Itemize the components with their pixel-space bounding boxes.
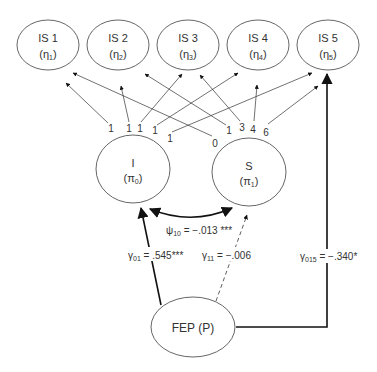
node-is1-symbol: (η1)	[39, 48, 56, 61]
node-is4-symbol: (η4)	[249, 48, 266, 61]
loading-s-is1: 0	[212, 138, 218, 149]
node-is2-symbol: (η2)	[109, 48, 126, 61]
node-slope-label: S	[245, 160, 252, 172]
arrow-i-is2	[121, 86, 129, 122]
intercept-loading-arrows	[66, 73, 312, 132]
node-fep: FEP (P)	[151, 297, 235, 357]
node-is4-label: IS 4	[248, 32, 268, 44]
loading-labels: 1 1 1 1 1 0 1 3 4 6	[108, 122, 269, 149]
arrow-s-is2	[145, 74, 226, 125]
node-intercept-symbol: (π0)	[124, 172, 143, 185]
node-is5-label: IS 5	[318, 32, 338, 44]
node-slope: S (π1)	[212, 138, 286, 206]
arrow-s-is5	[268, 86, 318, 124]
node-is3-symbol: (η3)	[179, 48, 196, 61]
node-intercept-label: I	[131, 157, 134, 169]
loading-i-is2: 1	[126, 123, 132, 134]
loading-i-is1: 1	[108, 123, 114, 134]
node-is1-label: IS 1	[38, 32, 58, 44]
path-fep-to-is5	[236, 74, 327, 327]
arrow-i-is1	[66, 83, 108, 123]
node-intercept: I (π0)	[96, 135, 170, 203]
arrow-i-is3	[141, 74, 182, 122]
arrow-s-is4	[254, 85, 257, 121]
node-is3: IS 3 (η3)	[157, 20, 219, 70]
node-is2-label: IS 2	[108, 32, 128, 44]
loading-s-is4: 4	[250, 124, 256, 135]
node-is5-symbol: (η5)	[319, 48, 336, 61]
arrow-i-is4	[157, 73, 238, 125]
loading-i-is4: 1	[152, 125, 158, 136]
node-is5: IS 5 (η5)	[297, 20, 359, 70]
node-is2: IS 2 (η2)	[87, 20, 149, 70]
covariance-arrow	[150, 208, 232, 217]
node-slope-symbol: (π1)	[240, 175, 259, 188]
arrow-s-is3	[200, 75, 240, 121]
node-is3-label: IS 3	[178, 32, 198, 44]
node-is4: IS 4 (η4)	[227, 20, 289, 70]
node-fep-label: FEP (P)	[172, 321, 214, 335]
loading-s-is2: 1	[226, 125, 232, 136]
loading-s-is3: 3	[239, 122, 245, 133]
loading-s-is5: 6	[263, 127, 269, 138]
covariance-label: ψ10 = −.013 ***	[166, 225, 232, 237]
path-diagram: IS 1 (η1) IS 2 (η2) IS 3 (η3) IS 4 (η4) …	[0, 0, 377, 372]
loading-i-is3: 1	[137, 123, 143, 134]
node-is1: IS 1 (η1)	[17, 20, 79, 70]
loading-i-is5: 1	[167, 133, 173, 144]
